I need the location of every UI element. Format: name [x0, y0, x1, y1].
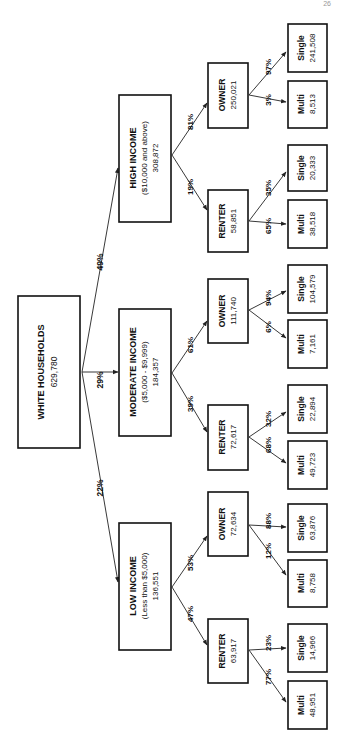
income-moderate-range: ($5,000 - $9,999) [140, 341, 149, 403]
tenure-connectors [249, 52, 286, 702]
tenure-value: 72,634 [229, 511, 238, 536]
root-value: 629,780 [49, 356, 59, 387]
pct-high-owner: 81% [186, 114, 195, 130]
leaf-value: 22,894 [308, 396, 317, 421]
income-high-value: 308,872 [151, 143, 160, 172]
pct-high-renter: 19% [186, 179, 195, 195]
pct-moderate-income: 29% [95, 371, 105, 388]
leaf-title: Multi [296, 455, 306, 475]
tenure-title: RENTER [217, 420, 227, 455]
tenure-value: 63,917 [229, 638, 238, 663]
leaf-mod-renter-multi: Multi 49,723 [288, 441, 327, 489]
leaf-low-renter-single: Single 14,966 [288, 624, 327, 672]
pct-mod-owner-multi: 6% [264, 321, 273, 333]
tenure-title: RENTER [217, 204, 227, 239]
leaf-value: 38,518 [308, 211, 317, 236]
income-low-title: LOW INCOME [128, 556, 138, 616]
income-node-moderate: MODERATE INCOME ($5,000 - $9,999) 184,35… [119, 309, 171, 436]
leaf-low-owner-multi: Multi 8,758 [288, 560, 327, 607]
tenure-title: OWNER [217, 295, 227, 328]
leaf-low-owner-single: Single 63,876 [288, 504, 327, 552]
leaf-value: 104,579 [308, 274, 317, 303]
pct-high-owner-single: 97% [264, 59, 273, 75]
leaf-title: Single [296, 35, 306, 61]
pct-low-owner: 53% [186, 555, 195, 571]
leaf-title: Single [296, 515, 306, 541]
pct-low-renter: 47% [186, 606, 195, 622]
leaf-title: Single [296, 396, 306, 422]
tenure-title: OWNER [217, 508, 227, 541]
pct-mod-renter-single: 32% [264, 411, 273, 427]
pct-high-owner-multi: 3% [264, 94, 273, 106]
leaf-value: 241,508 [308, 33, 317, 62]
income-moderate-title: MODERATE INCOME [128, 327, 138, 416]
leaf-low-renter-multi: Multi 48,951 [288, 681, 327, 729]
income-moderate-value: 184,357 [151, 357, 160, 386]
tenure-value: 250,021 [229, 80, 238, 109]
tenure-value: 72,617 [229, 424, 238, 449]
income-high-title: HIGH INCOME [128, 127, 138, 188]
tenure-node-high-renter: RENTER 58,851 [208, 190, 248, 252]
leaf-high-owner-multi: Multi 8,513 [288, 81, 327, 128]
leaf-title: Single [296, 276, 306, 302]
pct-high-income: 49% [95, 253, 105, 270]
leaf-value: 14,966 [308, 635, 317, 660]
pct-low-renter-multi: 77% [264, 669, 273, 685]
tenure-node-low-owner: OWNER 72,634 [208, 492, 248, 556]
leaf-title: Single [296, 635, 306, 661]
leaf-high-owner-single: Single 241,508 [288, 24, 327, 72]
leaf-high-renter-single: Single 20,333 [288, 145, 327, 191]
tenure-title: OWNER [217, 79, 227, 112]
leaf-value: 8,758 [308, 572, 317, 593]
tenure-value: 111,740 [229, 297, 238, 325]
leaf-title: Multi [296, 94, 306, 114]
leaf-value: 7,161 [308, 333, 317, 354]
leaf-title: Multi [296, 573, 306, 593]
leaf-value: 20,333 [308, 155, 317, 180]
leaf-high-renter-multi: Multi 38,518 [288, 200, 327, 248]
tenure-node-high-owner: OWNER 250,021 [208, 63, 248, 128]
tenure-node-mod-owner: OWNER 111,740 [208, 279, 248, 343]
tenure-node-mod-renter: RENTER 72,617 [208, 405, 248, 470]
pct-low-owner-multi: 12% [264, 543, 273, 559]
tenure-title: RENTER [217, 634, 227, 669]
leaf-value: 49,723 [308, 452, 317, 477]
root-title: WHITE HOUSEHOLDS [36, 324, 46, 419]
pct-low-renter-single: 23% [264, 635, 273, 651]
leaf-title: Multi [296, 334, 306, 354]
leaf-mod-renter-single: Single 22,894 [288, 385, 327, 433]
root-node: WHITE HOUSEHOLDS 629,780 [18, 296, 80, 448]
leaf-mod-owner-multi: Multi 7,161 [288, 320, 327, 368]
household-tree-diagram: 49% 29% 22% 81% 19% 61% 39% 53% 47% 97% … [0, 0, 343, 755]
leaf-value: 48,951 [308, 692, 317, 717]
income-high-range: ($10,000 and above) [140, 121, 149, 195]
leaf-value: 8,513 [308, 93, 317, 114]
pct-high-renter-single: 35% [264, 180, 273, 196]
leaf-mod-owner-single: Single 104,579 [288, 265, 327, 313]
leaf-value: 63,876 [308, 515, 317, 540]
leaf-title: Multi [296, 214, 306, 234]
pct-high-renter-multi: 65% [264, 218, 273, 234]
leaf-title: Single [296, 155, 306, 181]
leaf-title: Multi [296, 695, 306, 715]
pct-mod-owner: 61% [186, 337, 195, 353]
pct-low-income: 22% [95, 479, 105, 496]
pct-mod-renter-multi: 68% [264, 437, 273, 453]
tenure-value: 58,851 [229, 208, 238, 233]
pct-mod-renter: 39% [186, 396, 195, 412]
income-low-value: 136,551 [151, 571, 160, 600]
tenure-node-low-renter: RENTER 63,917 [208, 619, 248, 683]
income-node-low: LOW INCOME (Less than $5,000) 136,551 [119, 523, 171, 650]
pct-mod-owner-single: 94% [264, 290, 273, 306]
pct-low-owner-single: 88% [264, 513, 273, 529]
income-node-high: HIGH INCOME ($10,000 and above) 308,872 [119, 95, 171, 222]
income-low-range: (Less than $5,000) [140, 552, 149, 619]
